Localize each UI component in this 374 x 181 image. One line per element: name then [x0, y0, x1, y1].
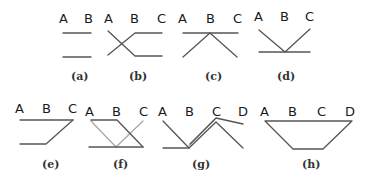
- panel-e: A B C (e): [15, 101, 77, 171]
- label-c: C: [212, 104, 221, 119]
- label-a: A: [260, 104, 269, 119]
- label-b: B: [130, 11, 139, 26]
- panel-c: A B C (c): [178, 11, 242, 83]
- line-bottom: [20, 120, 73, 144]
- panel-g: A B C D (g): [158, 104, 248, 171]
- label-c: C: [68, 101, 77, 116]
- line-branch: [183, 33, 237, 57]
- line-top: [91, 120, 143, 147]
- panel-d: A B C (d): [254, 9, 314, 83]
- line-v: [259, 29, 310, 52]
- line-zigzag: [163, 121, 243, 148]
- line-light-a: [91, 121, 116, 147]
- label-d: D: [345, 104, 355, 119]
- caption-e: (e): [42, 158, 59, 171]
- trapezoid: [265, 121, 352, 149]
- label-b: B: [185, 104, 194, 119]
- label-b: B: [84, 11, 93, 26]
- label-b: B: [288, 104, 297, 119]
- panel-a: A B (a): [59, 11, 93, 83]
- label-b: B: [42, 101, 51, 116]
- caption-a: (a): [71, 70, 89, 83]
- label-a: A: [59, 11, 68, 26]
- label-a: A: [85, 104, 94, 119]
- panel-b: A B C (b): [104, 11, 166, 83]
- line-up-cross: [108, 33, 162, 55]
- caption-c: (c): [205, 70, 222, 83]
- label-a: A: [104, 11, 113, 26]
- caption-f: (f): [113, 158, 128, 171]
- caption-b: (b): [129, 70, 147, 83]
- caption-h: (h): [302, 158, 320, 171]
- caption-g: (g): [192, 158, 210, 171]
- diagram-canvas: A B (a) A B C (b) A B C (c) A B C (d) A …: [0, 0, 374, 181]
- label-c: C: [139, 104, 148, 119]
- label-b: B: [112, 104, 121, 119]
- line-down-cross: [108, 31, 162, 56]
- label-a: A: [178, 11, 187, 26]
- panel-h: A B C D (h): [260, 104, 355, 171]
- label-b: B: [206, 11, 215, 26]
- label-a: A: [254, 9, 263, 24]
- caption-d: (d): [277, 70, 295, 83]
- panel-f: A B C (f): [85, 104, 148, 171]
- label-d: D: [238, 104, 248, 119]
- label-c: C: [233, 11, 242, 26]
- label-c: C: [305, 9, 314, 24]
- label-c: C: [317, 104, 326, 119]
- label-c: C: [157, 11, 166, 26]
- label-a: A: [158, 104, 167, 119]
- label-a: A: [15, 101, 24, 116]
- label-b: B: [280, 9, 289, 24]
